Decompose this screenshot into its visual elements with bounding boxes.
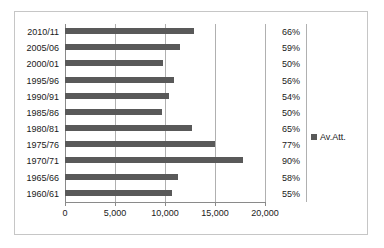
percentage-label: 55% — [267, 186, 306, 202]
category-label: 1965/66 — [15, 170, 63, 186]
x-tick-mark — [165, 202, 166, 206]
x-tick-mark — [215, 202, 216, 206]
x-tick-label: 15,000 — [201, 208, 229, 218]
bar[interactable] — [65, 141, 215, 147]
plot-area — [65, 24, 265, 202]
x-tick-mark — [115, 202, 116, 206]
chart-legend: Av.Att. — [311, 132, 346, 142]
percentage-label: 50% — [267, 105, 306, 121]
x-tick-label: 5,000 — [104, 208, 127, 218]
bar[interactable] — [65, 190, 172, 196]
percentage-label: 56% — [267, 73, 306, 89]
percentage-label: 50% — [267, 56, 306, 72]
percentage-label: 65% — [267, 121, 306, 137]
percentage-label: 58% — [267, 170, 306, 186]
category-label: 2010/11 — [15, 24, 63, 40]
percentage-label: 77% — [267, 137, 306, 153]
bar[interactable] — [65, 174, 178, 180]
percentage-column: 66%59%50%56%54%50%65%77%90%58%55% — [267, 24, 307, 202]
percentage-label: 54% — [267, 89, 306, 105]
bar-rows — [65, 24, 265, 202]
bar-row — [65, 121, 265, 137]
bar[interactable] — [65, 44, 180, 50]
bar-row — [65, 24, 265, 40]
category-axis-labels: 2010/112005/062000/011995/961990/911985/… — [15, 24, 63, 202]
bar-row — [65, 40, 265, 56]
bar[interactable] — [65, 28, 194, 34]
percentage-label: 66% — [267, 24, 306, 40]
bar-row — [65, 73, 265, 89]
bar[interactable] — [65, 109, 162, 115]
bar[interactable] — [65, 157, 243, 163]
percentage-label: 59% — [267, 40, 306, 56]
x-tick-label: 20,000 — [251, 208, 279, 218]
percentage-label: 90% — [267, 153, 306, 169]
x-tick-label: 10,000 — [151, 208, 179, 218]
bar-row — [65, 105, 265, 121]
legend-label: Av.Att. — [320, 132, 346, 142]
bar-row — [65, 186, 265, 202]
x-tick-mark — [65, 202, 66, 206]
gridline — [265, 24, 266, 202]
bar[interactable] — [65, 93, 169, 99]
bar[interactable] — [65, 125, 192, 131]
category-label: 1985/86 — [15, 105, 63, 121]
category-label: 1980/81 — [15, 121, 63, 137]
chart-container: 2010/112005/062000/011995/961990/911985/… — [14, 11, 368, 235]
category-label: 1970/71 — [15, 153, 63, 169]
category-label: 1995/96 — [15, 73, 63, 89]
bar[interactable] — [65, 60, 163, 66]
category-label: 2005/06 — [15, 40, 63, 56]
category-label: 2000/01 — [15, 56, 63, 72]
category-label: 1990/91 — [15, 89, 63, 105]
bar[interactable] — [65, 77, 174, 83]
x-tick-mark — [265, 202, 266, 206]
x-tick-label: 0 — [62, 208, 67, 218]
category-label: 1975/76 — [15, 137, 63, 153]
bar-row — [65, 56, 265, 72]
legend-swatch-icon — [311, 134, 317, 140]
bar-row — [65, 170, 265, 186]
bar-row — [65, 89, 265, 105]
bar-row — [65, 137, 265, 153]
category-label: 1960/61 — [15, 186, 63, 202]
bar-row — [65, 153, 265, 169]
